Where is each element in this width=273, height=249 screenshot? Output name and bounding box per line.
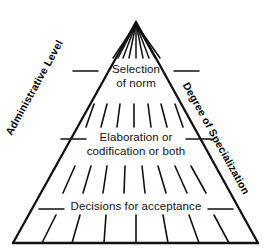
tick-mark (101, 104, 107, 127)
tick-mark (158, 166, 166, 193)
tick-mark (175, 166, 187, 193)
tick-mark (103, 166, 107, 193)
tick-mark (142, 166, 145, 193)
tick-mark (63, 166, 75, 193)
tick-mark (214, 215, 229, 243)
tick-row-base (42, 215, 229, 243)
tick-mark (175, 104, 183, 127)
tick-mark (42, 215, 56, 243)
triangle-right-edge (136, 22, 258, 243)
pyramid-diagram-canvas (0, 0, 273, 249)
tick-mark (83, 166, 91, 193)
triangle-left-edge (13, 22, 136, 243)
tick-row-lower (63, 166, 206, 193)
tick-mark (161, 104, 167, 127)
tick-mark (124, 166, 125, 193)
tick-mark (191, 166, 206, 193)
pyramid-diagram-figure: Selectionof norm Elaboration orcodificat… (0, 0, 273, 249)
tick-mark (117, 104, 120, 127)
tick-mark (148, 104, 151, 127)
tick-mark (189, 215, 199, 243)
tick-mark (163, 215, 168, 243)
apex-fan-ticks (113, 24, 160, 58)
tick-mark (104, 215, 106, 243)
tick-row-upper (86, 104, 183, 127)
tick-mark (72, 215, 80, 243)
